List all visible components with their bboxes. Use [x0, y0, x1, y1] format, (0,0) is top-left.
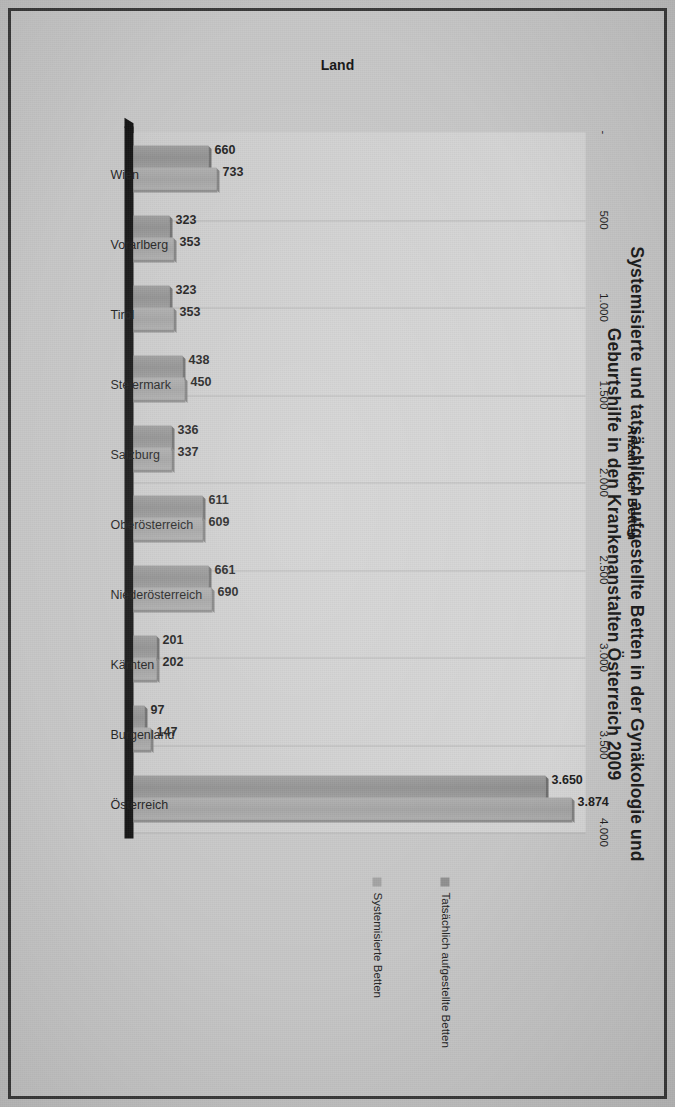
bar-slot: 611 [133, 495, 585, 517]
category-axis-labels: WienVorarlbergTirolSteiermarkSalzburgObe… [24, 132, 116, 832]
bar-value-label: 353 [179, 304, 200, 318]
bar-slot: 450 [133, 377, 585, 399]
value-tick-label: 1.000 [597, 293, 609, 322]
bar[interactable]: 3.874 [133, 797, 571, 819]
category-label: Steiermark [24, 349, 116, 405]
category-label: Vorarlberg [24, 209, 116, 265]
bar-value-label: 660 [214, 142, 235, 156]
value-tick-label: 1.500 [597, 380, 609, 409]
bar-slot: 323 [133, 215, 585, 237]
bar-slot: 661 [133, 565, 585, 587]
bar-side-face [133, 819, 572, 822]
bar-slot: 660 [133, 145, 585, 167]
bar-group: 3.6503.874 [133, 775, 585, 819]
rotated-chart-container: Systemisierte und tatsächlich aufgestell… [14, 14, 661, 1093]
category-label-text: Vorarlberg [110, 237, 168, 251]
bar-value-label: 611 [208, 492, 228, 506]
bar[interactable]: 336 [133, 425, 171, 447]
category-label-text: Niederösterreich [110, 587, 202, 601]
bar-value-label: 202 [162, 654, 183, 668]
bar-slot: 609 [133, 517, 585, 539]
bar-slot: 97 [133, 705, 585, 727]
bar-slot: 147 [133, 727, 585, 749]
category-label-text: Österreich [110, 797, 168, 811]
bar-chart: Systemisierte und tatsächlich aufgestell… [14, 14, 661, 1093]
bar-value-label: 336 [177, 422, 198, 436]
bar[interactable]: 3.650 [133, 775, 545, 797]
value-axis-ticks: -5001.0001.5002.0002.5003.0003.5004.000 [589, 132, 609, 832]
category-label: Salzburg [24, 419, 116, 475]
bar-slot: 733 [133, 167, 585, 189]
category-axis-title: Land [321, 57, 354, 73]
category-label: Österreich [24, 769, 116, 825]
bar-group: 336337 [133, 425, 585, 469]
bar-value-label: 201 [162, 632, 183, 646]
bar-groups: 6607333233533233534384503363376116096616… [133, 132, 585, 832]
bar-side-face [133, 329, 174, 332]
bar[interactable]: 611 [133, 495, 202, 517]
bar-value-label: 3.874 [577, 794, 608, 808]
bar[interactable]: 661 [133, 565, 208, 587]
bar-slot: 337 [133, 447, 585, 469]
bar-value-label: 353 [179, 234, 200, 248]
legend-item[interactable]: Tatsächlich aufgestellte Betten [439, 877, 451, 1077]
bar-group: 323353 [133, 215, 585, 259]
bar[interactable]: 323 [133, 215, 169, 237]
bar-slot: 202 [133, 657, 585, 679]
category-label: Wien [24, 139, 116, 195]
bar-value-label: 323 [175, 212, 196, 226]
bar-slot: 353 [133, 307, 585, 329]
legend-swatch-icon [373, 877, 382, 886]
category-label: Tirol [24, 279, 116, 335]
bar[interactable]: 97 [133, 705, 144, 727]
legend-swatch-icon [441, 877, 450, 886]
category-label-text: Steiermark [110, 377, 170, 391]
value-tick-label: 3.500 [597, 730, 609, 759]
bar-value-label: 609 [208, 514, 229, 528]
bar-slot: 336 [133, 425, 585, 447]
value-tick-label: 2.000 [597, 468, 609, 497]
category-label-text: Wien [110, 167, 138, 181]
category-label: Burgenland [24, 699, 116, 755]
chart-legend: Tatsächlich aufgestellte BettenSystemisi… [315, 877, 451, 1077]
bar-slot: 3.874 [133, 797, 585, 819]
bar-side-face [133, 259, 174, 262]
bar-side-face [133, 539, 203, 542]
bar[interactable]: 201 [133, 635, 156, 657]
bar-value-label: 337 [177, 444, 198, 458]
bar-value-label: 450 [190, 374, 211, 388]
bar[interactable]: 438 [133, 355, 182, 377]
bar-value-label: 733 [222, 164, 243, 178]
value-tick-label: 2.500 [597, 555, 609, 584]
bar[interactable]: 733 [133, 167, 216, 189]
category-label-text: Oberösterreich [110, 517, 193, 531]
bar-value-label: 661 [214, 562, 235, 576]
category-label-text: Tirol [110, 307, 134, 321]
value-tick-label: 500 [597, 210, 609, 229]
bar[interactable]: 660 [133, 145, 208, 167]
category-label-text: Salzburg [110, 447, 159, 461]
bar-slot: 323 [133, 285, 585, 307]
bar-side-face [133, 749, 151, 752]
bar-value-label: 438 [188, 352, 209, 366]
bar-value-label: 323 [175, 282, 196, 296]
bar[interactable]: 353 [133, 307, 173, 329]
category-label-text: Burgenland [110, 727, 174, 741]
category-label-text: Kärnten [110, 657, 154, 671]
legend-label: Tatsächlich aufgestellte Betten [439, 892, 451, 1047]
bar-value-label: 690 [217, 584, 238, 598]
bar-side-face [133, 679, 157, 682]
bar-group: 97147 [133, 705, 585, 749]
legend-item[interactable]: Systemisierte Betten [371, 877, 383, 1077]
bar-group: 660733 [133, 145, 585, 189]
bar[interactable]: 323 [133, 285, 169, 307]
value-tick-label: 4.000 [597, 818, 609, 847]
category-label: Kärnten [24, 629, 116, 685]
bar-side-face [133, 189, 217, 192]
bar-slot: 353 [133, 237, 585, 259]
value-tick-label: 3.000 [597, 643, 609, 672]
bar-value-label: 97 [150, 702, 164, 716]
figure-frame: Systemisierte und tatsächlich aufgestell… [8, 8, 667, 1099]
category-label: Oberösterreich [24, 489, 116, 545]
bar-slot: 201 [133, 635, 585, 657]
